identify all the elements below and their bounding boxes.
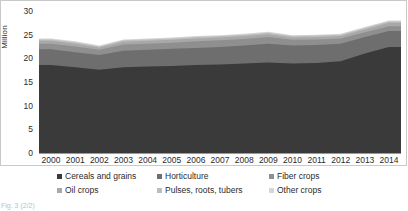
legend-swatch-icon [157, 174, 162, 179]
legend-item-label: Other crops [277, 186, 321, 195]
legend-item-label: Oil crops [65, 186, 99, 195]
x-axis-tick-2005: 2005 [160, 155, 184, 167]
legend-item-other-crops[interactable]: Other crops [269, 186, 369, 195]
legend-item-label: Pulses, roots, tubers [165, 186, 242, 195]
stacked-area-series-group [39, 11, 401, 153]
x-axis-line [39, 153, 401, 154]
y-axis-tick-0: 0 [11, 149, 33, 157]
legend-swatch-icon [57, 174, 62, 179]
legend-item-cereals-and-grains[interactable]: Cereals and grains [57, 172, 157, 181]
legend-item-label: Horticulture [165, 172, 208, 181]
x-axis-tick-labels: 2000200120022003200420052006200720082009… [39, 155, 401, 167]
x-axis-tick-2002: 2002 [87, 155, 111, 167]
x-axis-tick-2004: 2004 [136, 155, 160, 167]
figure-caption-text: Fig. 3 (2/2) [1, 201, 121, 210]
x-axis-tick-2001: 2001 [63, 155, 87, 167]
y-axis-tick-25: 25 [11, 31, 33, 39]
x-axis-tick-2012: 2012 [329, 155, 353, 167]
x-axis-tick-2008: 2008 [232, 155, 256, 167]
legend-swatch-icon [157, 188, 162, 193]
x-axis-tick-2014: 2014 [377, 155, 401, 167]
legend-swatch-icon [269, 188, 274, 193]
x-axis-tick-2011: 2011 [305, 155, 329, 167]
legend-swatch-icon [269, 174, 274, 179]
chart-frame: Million 302520151050 2000200120022003200… [0, 0, 407, 166]
legend-item-label: Fiber crops [277, 172, 320, 181]
chart-legend: Cereals and grainsHorticultureFiber crop… [57, 169, 387, 197]
y-axis-title: Million [0, 7, 9, 67]
x-axis-tick-2000: 2000 [39, 155, 63, 167]
legend-item-oil-crops[interactable]: Oil crops [57, 186, 157, 195]
legend-item-label: Cereals and grains [65, 172, 136, 181]
x-axis-tick-2003: 2003 [111, 155, 135, 167]
legend-item-pulses-roots-tubers[interactable]: Pulses, roots, tubers [157, 186, 269, 195]
x-axis-tick-2006: 2006 [184, 155, 208, 167]
legend-item-fiber-crops[interactable]: Fiber crops [269, 172, 369, 181]
y-axis-tick-30: 30 [11, 7, 33, 15]
x-axis-tick-2013: 2013 [353, 155, 377, 167]
legend-swatch-icon [57, 188, 62, 193]
y-axis-tick-20: 20 [11, 54, 33, 62]
x-axis-tick-2009: 2009 [256, 155, 280, 167]
y-axis-tick-5: 5 [11, 125, 33, 133]
legend-item-horticulture[interactable]: Horticulture [157, 172, 269, 181]
x-axis-tick-2010: 2010 [280, 155, 304, 167]
x-axis-tick-2007: 2007 [208, 155, 232, 167]
plot-area [39, 11, 401, 153]
figure-caption-clipped: Fig. 3 (2/2) [1, 201, 121, 210]
y-axis-tick-10: 10 [11, 102, 33, 110]
y-axis-tick-15: 15 [11, 78, 33, 86]
chart-screenshot: Million 302520151050 2000200120022003200… [0, 0, 408, 211]
